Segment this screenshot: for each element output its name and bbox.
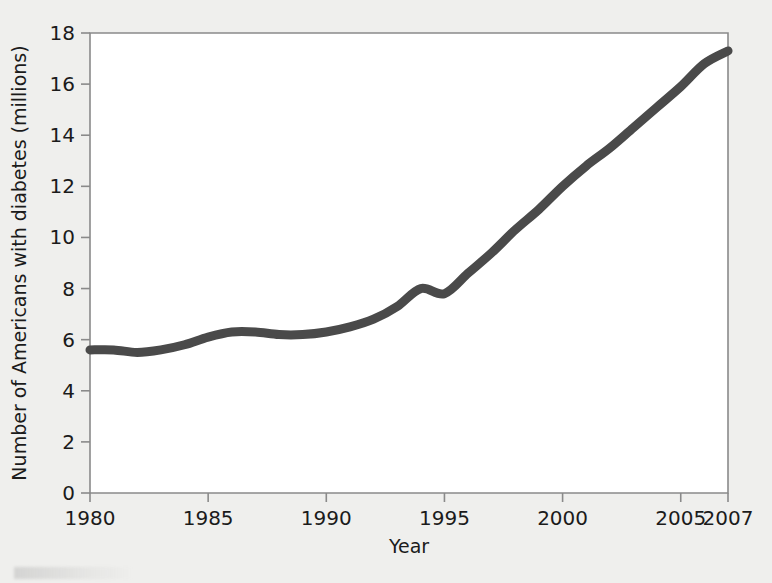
y-tick-label-12: 12 bbox=[50, 174, 75, 198]
x-tick-label-2005: 2005 bbox=[655, 506, 706, 530]
y-tick-label-4: 4 bbox=[62, 379, 75, 403]
x-tick-label-1985: 1985 bbox=[183, 506, 234, 530]
x-tick-label-1980: 1980 bbox=[65, 506, 116, 530]
y-tick-label-10: 10 bbox=[50, 225, 75, 249]
y-axis-title: Number of Americans with diabetes (milli… bbox=[8, 45, 30, 480]
x-tick-label-1990: 1990 bbox=[301, 506, 352, 530]
caption-smudge bbox=[14, 567, 134, 579]
y-tick-label-16: 16 bbox=[50, 72, 75, 96]
figure-container: 024681012141618 198019851990199520002005… bbox=[0, 0, 772, 583]
diabetes-line-chart: 024681012141618 198019851990199520002005… bbox=[0, 0, 772, 583]
y-tick-label-18: 18 bbox=[50, 21, 75, 45]
x-tick-label-2007: 2007 bbox=[703, 506, 754, 530]
y-tick-label-8: 8 bbox=[62, 277, 75, 301]
y-tick-label-2: 2 bbox=[62, 430, 75, 454]
y-tick-label-14: 14 bbox=[50, 123, 75, 147]
x-tick-label-2000: 2000 bbox=[537, 506, 588, 530]
y-tick-label-0: 0 bbox=[62, 481, 75, 505]
x-tick-label-1995: 1995 bbox=[419, 506, 470, 530]
y-tick-label-6: 6 bbox=[62, 328, 75, 352]
plot-area-background bbox=[90, 33, 728, 493]
x-axis-title: Year bbox=[388, 535, 429, 557]
